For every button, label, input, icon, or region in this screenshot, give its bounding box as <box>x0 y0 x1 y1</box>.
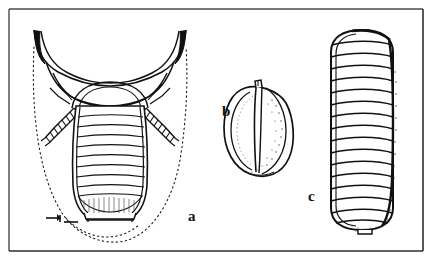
illustration-plate: a <box>0 0 440 266</box>
figure-a-abdomen <box>73 106 148 222</box>
figure-b-label: b <box>222 103 230 119</box>
plate-canvas: a <box>0 0 440 266</box>
figure-a-label: a <box>188 208 196 224</box>
figure-c-label: c <box>308 188 315 204</box>
